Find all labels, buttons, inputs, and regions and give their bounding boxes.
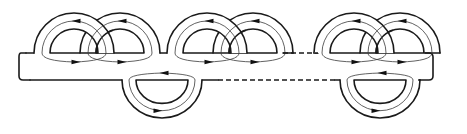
arrow-left-icon xyxy=(118,19,127,23)
crossing-mask xyxy=(34,13,114,53)
arrow-left-icon xyxy=(251,19,260,23)
band-pair-1 xyxy=(34,13,160,64)
arrow-right-icon xyxy=(205,60,214,64)
arrow-left-icon xyxy=(398,19,407,23)
lower-band-1 xyxy=(122,71,202,118)
lower-band-2 xyxy=(340,71,420,118)
lower-band-hole xyxy=(136,80,188,103)
arrow-right-icon xyxy=(398,60,407,64)
arrow-left-icon xyxy=(378,71,387,75)
arrow-right-icon xyxy=(352,60,361,64)
band-pair-3 xyxy=(314,13,440,64)
horizontal-strip xyxy=(19,53,440,80)
crossing-mask xyxy=(314,13,394,53)
ribbon-diagram-canvas xyxy=(0,0,467,134)
lower-band-outer-edge xyxy=(122,80,202,118)
arrow-right-icon xyxy=(118,60,127,64)
strip-left-end xyxy=(19,53,30,80)
ellipsis-dashes xyxy=(218,53,335,80)
upper-band-pairs xyxy=(34,13,440,64)
strip-right-end xyxy=(419,53,433,80)
crossing-mask xyxy=(167,13,247,53)
arrow-right-icon xyxy=(251,60,260,64)
arrow-right-icon xyxy=(72,60,81,64)
arrow-right-icon xyxy=(154,108,163,112)
lower-band-outer-edge xyxy=(340,80,420,118)
lower-bands xyxy=(122,71,420,118)
ribbon-diagram xyxy=(0,0,467,134)
band-pair-2 xyxy=(167,13,293,64)
arrow-right-icon xyxy=(372,108,381,112)
lower-band-hole xyxy=(354,80,406,103)
arrow-left-icon xyxy=(160,71,169,75)
